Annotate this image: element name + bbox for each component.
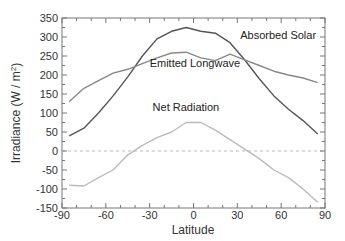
y-tick-label: 150 xyxy=(40,88,58,100)
y-tick-label: 100 xyxy=(40,107,58,119)
y-tick-label: 250 xyxy=(40,50,58,62)
series-labels: Absorbed SolarEmitted LongwaveNet Radiat… xyxy=(150,29,317,113)
series-line-absorbed-solar xyxy=(69,28,317,136)
x-tick-label: 30 xyxy=(231,209,243,221)
irradiance-chart: Absorbed SolarEmitted LongwaveNet Radiat… xyxy=(0,0,345,241)
y-tick-label: 350 xyxy=(40,12,58,24)
x-axis-ticks: -90-60-300306090 xyxy=(54,18,331,221)
series-label-net-radiation: Net Radiation xyxy=(153,101,220,113)
series-line-net-radiation xyxy=(69,123,317,203)
x-tick-label: 0 xyxy=(190,209,196,221)
series-layer xyxy=(69,28,317,203)
y-tick-label: 200 xyxy=(40,69,58,81)
y-tick-label: -100 xyxy=(36,183,58,195)
y-tick-label: 300 xyxy=(40,31,58,43)
x-tick-label: -60 xyxy=(98,209,114,221)
y-tick-label: 0 xyxy=(52,145,58,157)
x-tick-label: -30 xyxy=(142,209,158,221)
y-axis-title: Irradiance (W / m2) xyxy=(9,63,23,163)
y-tick-label: -150 xyxy=(36,202,58,214)
x-tick-label: 60 xyxy=(275,209,287,221)
y-tick-label: -50 xyxy=(42,164,58,176)
series-label-emitted-longwave: Emitted Longwave xyxy=(150,57,241,69)
x-axis-title: Latitude xyxy=(172,223,215,237)
x-tick-label: 90 xyxy=(319,209,331,221)
series-label-absorbed-solar: Absorbed Solar xyxy=(240,29,316,41)
y-tick-label: 50 xyxy=(46,126,58,138)
